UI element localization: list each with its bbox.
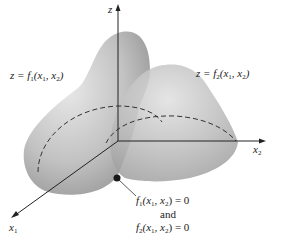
s1-sep: , x [46, 69, 56, 81]
s1-close: ) [60, 69, 64, 81]
z-axis-label: z [108, 4, 112, 15]
annotation-line-1: f1(x1, x2) = 0 [136, 195, 189, 208]
a1-args: (x [143, 194, 152, 206]
a1-sep: , x [155, 194, 165, 206]
x1-axis-arrow-icon [11, 211, 19, 218]
a3-end: ) = 0 [169, 221, 190, 233]
leader-line [119, 180, 136, 196]
s1-prefix: z = [10, 69, 27, 81]
x1-label-sub: 1 [14, 227, 18, 235]
a3-sep: , x [155, 221, 165, 233]
surface-f2-label: z = f2(x1, x2) [196, 68, 249, 81]
z-axis-arrow-icon [116, 4, 121, 11]
surface-f1-label: z = f1(x1, x2) [10, 70, 63, 83]
annotation-line-3: f2(x1, x2) = 0 [136, 222, 189, 235]
s2-prefix: z = [196, 67, 213, 79]
x1-axis-label: x1 [9, 222, 17, 235]
a3-args: (x [143, 221, 152, 233]
intersection-point [114, 175, 121, 182]
a1-end: ) = 0 [169, 194, 190, 206]
x2-label-sub: 2 [258, 149, 262, 157]
s2-sep: , x [232, 67, 242, 79]
s2-close: ) [246, 67, 250, 79]
annotation-connector: and [160, 209, 176, 220]
x2-axis-label: x2 [253, 144, 261, 157]
x2-axis-arrow-icon [259, 139, 266, 144]
